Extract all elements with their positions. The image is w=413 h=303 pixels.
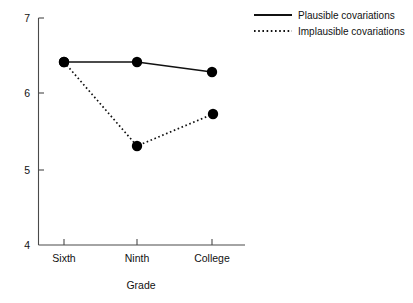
chart-canvas: 7 6 5 4 Sixth Ninth College Grade Plausi… [0,0,413,303]
x-axis-title: Grade [126,279,155,291]
y-tick-label-7: 7 [24,12,30,24]
series-line-implausible [64,62,213,146]
x-tick-label-sixth: Sixth [52,252,76,264]
legend-label-implausible: Implausible covariations [298,26,405,37]
data-point-implausible-sixth [59,57,69,67]
x-tick-label-ninth: Ninth [125,252,150,264]
data-point-plausible-ninth [132,57,142,67]
line-chart-figure: 7 6 5 4 Sixth Ninth College Grade Plausi… [0,0,413,303]
y-tick-label-5: 5 [24,164,30,176]
x-tick-label-college: College [194,252,230,264]
data-point-implausible-college [208,109,218,119]
data-point-implausible-ninth [132,141,142,151]
data-point-plausible-college [207,67,217,77]
y-tick-label-4: 4 [24,239,30,251]
legend-label-plausible: Plausible covariations [298,10,395,21]
y-tick-label-6: 6 [24,87,30,99]
legend: Plausible covariations Implausible covar… [254,10,405,37]
